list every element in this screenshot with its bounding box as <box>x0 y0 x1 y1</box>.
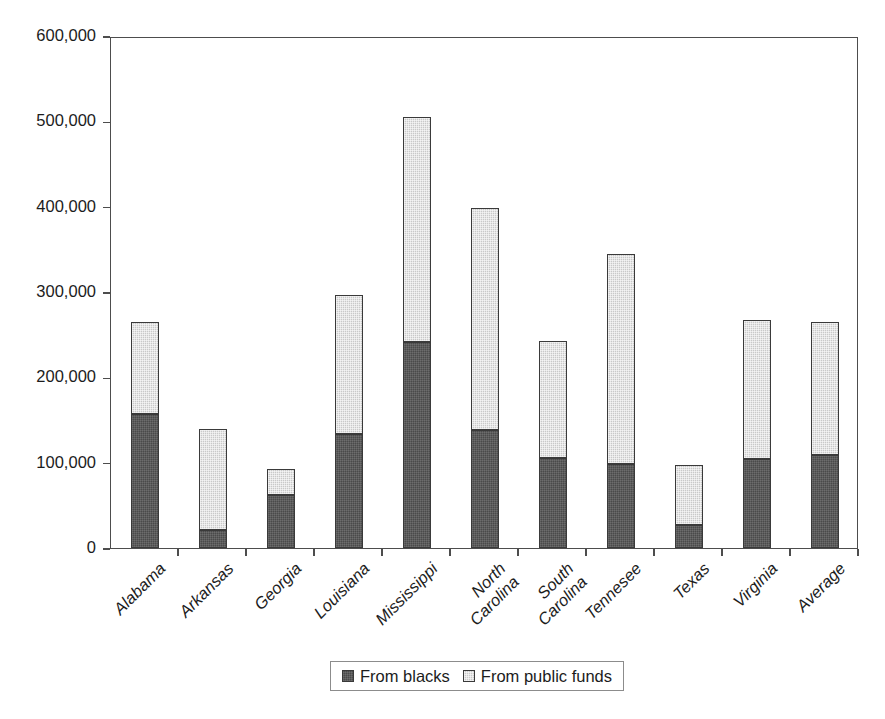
bar-segment-from-public-funds[interactable] <box>539 341 567 459</box>
legend-item[interactable]: From public funds <box>463 667 612 686</box>
x-tick-mark <box>857 549 859 556</box>
x-tick-mark <box>721 549 723 556</box>
y-tick-label: 200,000 <box>0 367 96 386</box>
bar-segment-from-blacks[interactable] <box>199 530 227 548</box>
legend-label-from-public-funds: From public funds <box>481 667 612 686</box>
x-tick-mark <box>653 549 655 556</box>
bar-segment-from-blacks[interactable] <box>811 455 839 548</box>
plot-area <box>110 37 858 549</box>
stacked-bar-chart: 0100,000200,000300,000400,000500,000600,… <box>0 0 885 719</box>
legend-swatch-from-blacks <box>342 670 354 682</box>
x-tick-mark <box>517 549 519 556</box>
bar-segment-from-public-funds[interactable] <box>403 117 431 342</box>
y-tick-mark <box>103 207 110 209</box>
y-tick-mark <box>103 463 110 465</box>
x-tick-mark <box>381 549 383 556</box>
bar-segment-from-blacks[interactable] <box>607 464 635 548</box>
y-tick-mark <box>103 292 110 294</box>
bar-segment-from-blacks[interactable] <box>131 414 159 548</box>
x-tick-mark <box>789 549 791 556</box>
y-tick-label: 500,000 <box>0 111 96 130</box>
bar-segment-from-public-funds[interactable] <box>335 295 363 433</box>
y-tick-mark <box>103 548 110 550</box>
y-tick-label: 0 <box>0 538 96 557</box>
bar-segment-from-blacks[interactable] <box>403 342 431 548</box>
bar-segment-from-blacks[interactable] <box>675 525 703 548</box>
x-tick-mark <box>177 549 179 556</box>
y-tick-mark <box>103 378 110 380</box>
legend-label-from-blacks: From blacks <box>360 667 450 686</box>
y-tick-mark <box>103 36 110 38</box>
bar-segment-from-public-funds[interactable] <box>743 320 771 459</box>
bar-segment-from-blacks[interactable] <box>471 430 499 548</box>
bar-segment-from-public-funds[interactable] <box>267 469 295 495</box>
bar-segment-from-public-funds[interactable] <box>675 465 703 525</box>
bar-segment-from-public-funds[interactable] <box>471 208 499 430</box>
legend: From blacks From public funds <box>330 661 624 691</box>
x-tick-mark <box>449 549 451 556</box>
legend-swatch-from-public-funds <box>463 670 475 682</box>
bar-segment-from-blacks[interactable] <box>335 434 363 548</box>
bar-segment-from-public-funds[interactable] <box>131 322 159 414</box>
bar-segment-from-public-funds[interactable] <box>607 254 635 464</box>
bar-segment-from-public-funds[interactable] <box>199 429 227 530</box>
y-tick-label: 600,000 <box>0 26 96 45</box>
bar-segment-from-public-funds[interactable] <box>811 322 839 455</box>
x-tick-mark <box>245 549 247 556</box>
bar-segment-from-blacks[interactable] <box>267 495 295 548</box>
bar-segment-from-blacks[interactable] <box>539 458 567 548</box>
y-tick-mark <box>103 122 110 124</box>
y-tick-label: 100,000 <box>0 453 96 472</box>
x-tick-mark <box>585 549 587 556</box>
x-tick-mark <box>313 549 315 556</box>
legend-item[interactable]: From blacks <box>342 667 450 686</box>
y-tick-label: 300,000 <box>0 282 96 301</box>
bar-segment-from-blacks[interactable] <box>743 459 771 548</box>
y-tick-label: 400,000 <box>0 197 96 216</box>
